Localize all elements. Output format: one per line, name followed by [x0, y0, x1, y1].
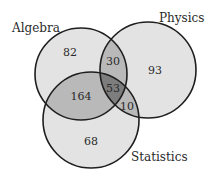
statistics-only-count: 68 [84, 135, 98, 148]
all-three-count: 53 [106, 82, 120, 95]
algebra-label: Algebra [11, 21, 60, 35]
physics-label: Physics [159, 11, 204, 25]
venn-diagram: Algebra Physics Statistics 82 93 68 30 1… [0, 0, 211, 178]
algebra-only-count: 82 [63, 46, 77, 59]
physics-statistics-count: 10 [120, 100, 134, 113]
algebra-statistics-count: 164 [71, 90, 92, 103]
algebra-physics-count: 30 [106, 55, 120, 68]
physics-only-count: 93 [148, 64, 162, 77]
statistics-label: Statistics [131, 150, 188, 164]
